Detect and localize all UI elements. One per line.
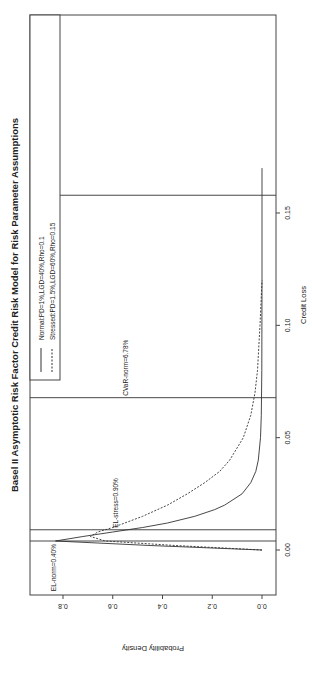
x-tick-label: 0.05 <box>284 431 291 445</box>
y-tick-label: 0.0 <box>257 603 267 610</box>
reference-line-label: CVaR-norm=6.78% <box>122 339 129 395</box>
density-chart: Basel II Asymptotic Risk Factor Credit R… <box>0 0 312 674</box>
y-tick-label: 0.2 <box>207 603 217 610</box>
reference-line-label: EL-norm=0.40% <box>50 544 57 591</box>
normal-density-curve <box>56 168 263 550</box>
reference-lines: EL-norm=0.40%EL-stress=0.90%CVaR-norm=6.… <box>30 131 276 591</box>
y-tick-label: 0.8 <box>58 603 68 610</box>
legend-box <box>30 15 60 380</box>
y-tick-label: 0.4 <box>158 603 168 610</box>
y-axis: 0.00.20.40.60.8 <box>58 595 267 610</box>
plot-frame <box>30 15 276 595</box>
legend-item-stressed: Stressed:PD=1.5%,LGD=60%,Rho=0.15 <box>49 222 56 340</box>
legend: Normal:PD=1%,LGD=40%,Rho=0.1 Stressed:PD… <box>30 15 60 380</box>
x-axis-label: Credit Loss <box>299 286 308 324</box>
chart-stage: Basel II Asymptotic Risk Factor Credit R… <box>0 0 312 674</box>
x-tick-label: 0.00 <box>284 543 291 557</box>
reference-line-label: EL-stress=0.90% <box>112 478 119 528</box>
density-curves <box>56 168 263 550</box>
x-tick-label: 0.15 <box>284 206 291 220</box>
y-axis-label: Probability Density <box>122 644 184 653</box>
x-axis: 0.000.050.100.15 <box>276 206 291 557</box>
chart-title: Basel II Asymptotic Risk Factor Credit R… <box>9 118 20 492</box>
y-tick-label: 0.6 <box>108 603 118 610</box>
legend-item-normal: Normal:PD=1%,LGD=40%,Rho=0.1 <box>38 236 45 340</box>
x-tick-label: 0.10 <box>284 318 291 332</box>
